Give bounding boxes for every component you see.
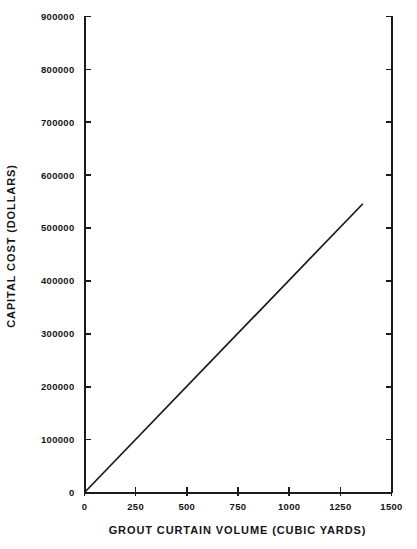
x-axis-title: GROUT CURTAIN VOLUME (CUBIC YARDS) (84, 524, 391, 536)
chart-plot: 0100000200000300000400000500000600000700… (0, 0, 417, 549)
x-axis-tick-label: 250 (127, 501, 144, 512)
x-axis-tick-label: 1000 (278, 501, 300, 512)
x-axis-tick-label: 1500 (380, 501, 402, 512)
y-axis-tick-label: 600000 (41, 170, 75, 181)
x-axis-tick-label: 1250 (329, 501, 351, 512)
y-axis-tick-label: 700000 (41, 117, 75, 128)
y-axis-tick-label: 900000 (41, 11, 75, 22)
y-axis-tick-label: 0 (69, 487, 75, 498)
data-series-line (85, 204, 363, 493)
y-axis-tick-label: 800000 (41, 64, 75, 75)
y-axis-tick-label: 400000 (41, 275, 75, 286)
y-axis-tick-label: 100000 (41, 434, 75, 445)
y-axis-tick-label: 500000 (41, 222, 75, 233)
y-axis-tick-label: 300000 (41, 328, 75, 339)
chart-page: CAPITAL COST (DOLLARS) 01000002000003000… (0, 0, 417, 549)
x-axis-tick-label: 500 (178, 501, 195, 512)
x-axis-tick-label: 750 (230, 501, 247, 512)
x-axis-tick-label: 0 (82, 501, 88, 512)
y-axis-tick-label: 200000 (41, 381, 75, 392)
